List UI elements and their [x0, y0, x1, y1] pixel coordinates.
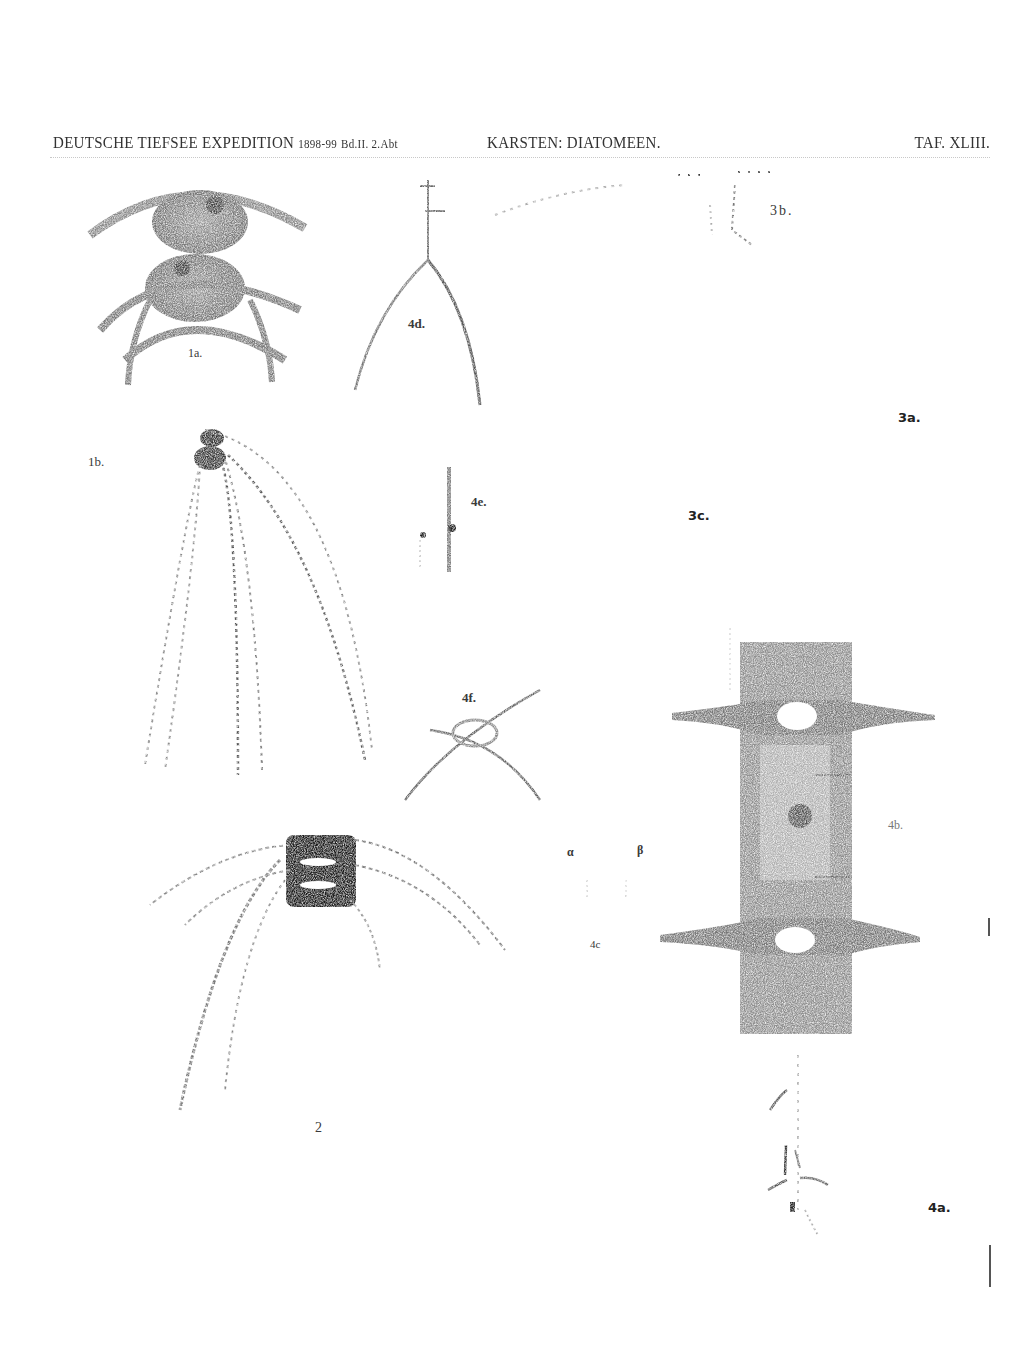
figure-label-4f: 4f. — [462, 690, 476, 706]
figure-3b-drawing — [495, 172, 770, 245]
figure-label-4b: 4b. — [888, 818, 903, 833]
figure-4a-drawing — [768, 1055, 828, 1235]
figure-label-3b: 3b. — [770, 203, 794, 219]
figure-label-4d: 4d. — [408, 316, 425, 332]
figure-1b-drawing — [145, 429, 372, 775]
margin-tick-mark — [988, 918, 990, 936]
figure-label-1b: 1b. — [88, 454, 104, 470]
figure-label-4c: 4c — [590, 938, 600, 950]
margin-tick-mark-bottom — [989, 1245, 991, 1287]
figure-4d-drawing — [355, 180, 480, 405]
figure-4c-alpha-mark: α — [567, 845, 574, 860]
figure-label-3a: 3a. — [898, 410, 921, 425]
figure-4e-drawing — [420, 467, 456, 572]
figure-label-1a: 1a. — [188, 346, 202, 361]
plate-page: DEUTSCHE TIEFSEE EXPEDITION 1898-99 Bd.I… — [0, 0, 1020, 1371]
figure-4c-beta-mark: β — [637, 843, 643, 858]
figure-label-4e: 4e. — [471, 494, 487, 510]
figure-4f-drawing — [405, 690, 540, 800]
figure-4c-drawing — [587, 880, 626, 900]
figure-label-4a: 4a. — [928, 1200, 951, 1215]
figure-label-2: 2 — [315, 1120, 322, 1136]
figure-label-3c: 3c. — [688, 508, 710, 523]
figure-2-drawing — [150, 835, 505, 1110]
plate-illustrations — [0, 0, 1020, 1371]
